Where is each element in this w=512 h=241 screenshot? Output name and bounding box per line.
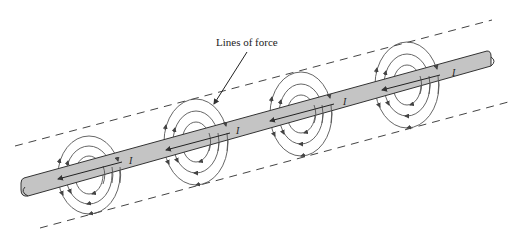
magnetic-field-diagram: I I I I Lines of force (0, 0, 512, 241)
current-label-2: I (235, 125, 240, 136)
current-label-4: I (451, 67, 456, 78)
conductor (21, 51, 494, 196)
current-label-1: I (128, 155, 133, 166)
annotation-leader-arrow (214, 52, 247, 104)
lines-of-force-label: Lines of force (216, 36, 278, 48)
current-label-3: I (342, 96, 347, 107)
